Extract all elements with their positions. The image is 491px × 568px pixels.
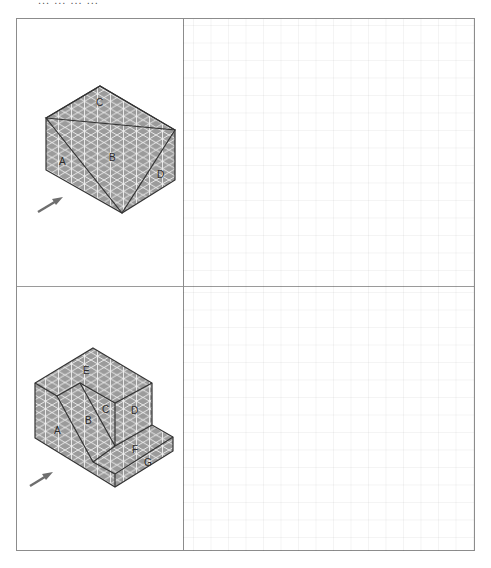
figure-2-stepped-block: E A B C D F G (30, 348, 173, 487)
fig1-label-a: A (59, 156, 66, 167)
fig2-arrow-icon (30, 472, 53, 486)
fig2-label-a: A (54, 425, 61, 436)
fig1-arrow-icon (38, 197, 63, 212)
fig2-label-g: G (144, 457, 152, 468)
fig2-label-b: B (85, 415, 92, 426)
fig2-label-f: F (132, 444, 138, 455)
fig1-label-d: D (157, 169, 164, 180)
fig1-label-b: B (109, 152, 116, 163)
fig1-outline (46, 86, 175, 213)
fig2-label-d: D (131, 405, 138, 416)
fig2-label-e: E (83, 365, 90, 376)
fig2-outline (35, 348, 173, 487)
figures-layer: C A B D E A B C D F G (0, 0, 491, 568)
fig1-label-c: C (96, 97, 103, 108)
figure-1-prism: C A B D (38, 86, 175, 213)
fig2-label-c: C (102, 404, 109, 415)
